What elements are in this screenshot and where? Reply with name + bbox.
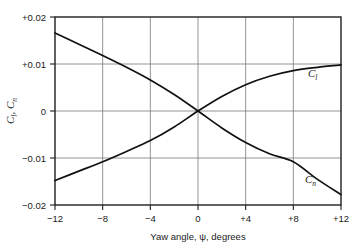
x-tick-label: +4 <box>240 213 251 224</box>
chart-svg: +0.02 +0.01 0 −0.01 −0.02 −12 −8 −4 0 +4… <box>0 0 357 247</box>
x-axis-title: Yaw angle, ψ, degrees <box>150 231 246 242</box>
y-axis-title: Cl, Cn <box>4 98 19 124</box>
y-tick-label: −0.01 <box>22 153 46 164</box>
chart-figure: +0.02 +0.01 0 −0.01 −0.02 −12 −8 −4 0 +4… <box>0 0 357 247</box>
x-tickmarks <box>55 205 341 210</box>
x-tick-labels: −12 −8 −4 0 +4 +8 +12 <box>47 213 349 224</box>
x-tick-label: −4 <box>145 213 156 224</box>
x-tick-label: +8 <box>288 213 299 224</box>
y-tick-label: −0.02 <box>22 200 46 211</box>
curve-label-cl-sub: l <box>315 73 317 82</box>
x-tick-label: −8 <box>97 213 108 224</box>
y-tick-label: +0.01 <box>22 59 46 70</box>
x-tick-label: 0 <box>195 213 200 224</box>
svg-text:Cl, Cn: Cl, Cn <box>4 98 19 124</box>
x-tick-label: −12 <box>47 213 63 224</box>
y-tick-label: 0 <box>41 106 46 117</box>
y-tick-labels: +0.02 +0.01 0 −0.01 −0.02 <box>22 12 46 211</box>
y-axis-title-sub2: n <box>10 98 19 102</box>
curve-label-cn-sub: n <box>312 179 316 188</box>
x-tick-label: +12 <box>333 213 349 224</box>
y-tick-label: +0.02 <box>22 12 46 23</box>
y-tickmarks <box>50 17 55 205</box>
